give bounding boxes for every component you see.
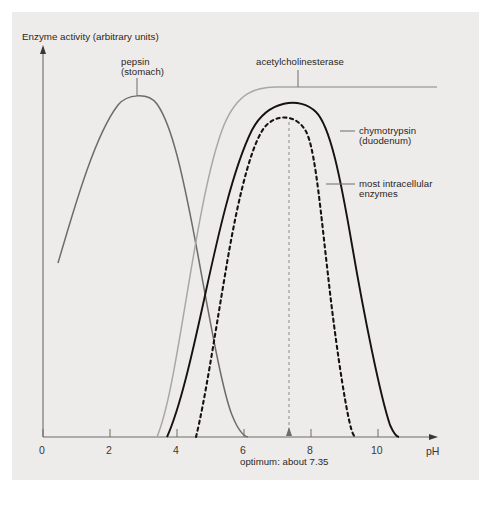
curve-chymotrypsin (167, 103, 399, 437)
label-pepsin-line2: (stomach) (121, 67, 164, 78)
y-axis-title: Enzyme activity (arbitrary units) (22, 31, 159, 42)
x-tick-label-2: 2 (106, 444, 112, 456)
optimum-guide (286, 122, 292, 436)
label-acetylcholinesterase: acetylcholinesterase (256, 57, 344, 68)
optimum-note: optimum: about 7.35 (240, 457, 328, 468)
x-tick-label-4: 4 (173, 444, 179, 456)
curve-intracellular-enzymes (196, 118, 356, 437)
curve-pepsin (58, 96, 248, 437)
ph-enzyme-activity-chart (0, 0, 491, 511)
x-tick-label-0: 0 (39, 444, 45, 456)
label-intracellular-line2: enzymes (359, 189, 398, 200)
y-axis (40, 45, 46, 437)
x-tick-label-6: 6 (240, 444, 246, 456)
x-axis-title: pH (426, 445, 439, 457)
label-chymotrypsin-line2: (duodenum) (359, 136, 411, 147)
x-tick-label-10: 10 (371, 444, 383, 456)
x-tick-label-8: 8 (307, 444, 313, 456)
x-axis-ticks (43, 429, 378, 437)
